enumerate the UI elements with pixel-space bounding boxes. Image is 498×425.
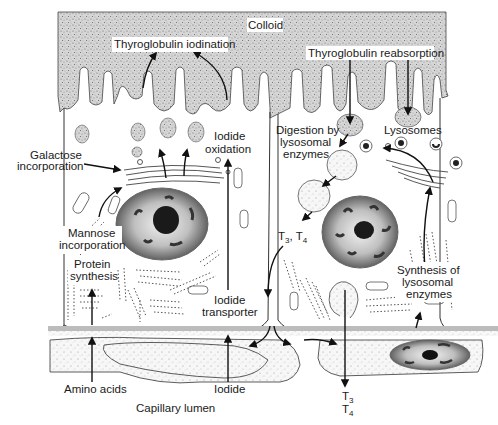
label-digestion: Digestion by [276,124,340,136]
label-thyroglobulin-reabsorption: Thyroglobulin reabsorption [308,47,444,59]
label-amino-acids: Amino acids [64,383,127,395]
lysosomes [360,137,462,169]
label-iodide-oxidation: Iodide [214,130,245,142]
label-capillary-lumen: Capillary lumen [136,402,215,414]
svg-text:incorporation: incorporation [59,239,125,251]
nucleolus [153,206,179,234]
svg-text:lysosomal: lysosomal [280,136,331,148]
svg-text:transporter: transporter [202,306,258,318]
thyroid-follicle-diagram: Colloid Thyroglobulin iodination Thyrogl… [0,0,498,425]
golgi-apparatus [124,158,230,186]
label-iodide: Iodide [214,383,245,395]
label-iodide-transporter: Iodide [214,294,245,306]
capillary-endothelium [50,337,483,383]
label-thyroglobulin-iodination: Thyroglobulin iodination [114,38,235,50]
svg-text:lysosomal: lysosomal [402,276,453,288]
phagolysosome [327,150,357,180]
label-colloid: Colloid [248,19,283,31]
secretory-vesicle [75,125,89,143]
label-synthesis-lysosomal-enzymes: Synthesis of [397,264,460,276]
secretory-vesicle [131,123,145,141]
svg-text:incorporation: incorporation [17,160,83,172]
svg-text:enzymes: enzymes [406,288,452,300]
label-protein-synthesis: Protein [74,258,110,270]
svg-text:synthesis: synthesis [70,270,118,282]
label-lysosomes: Lysosomes [384,124,442,136]
label-t4-out: T4 [342,403,354,418]
golgi-apparatus-right [386,144,449,189]
label-t3-t4-cell: T3, T4 [278,230,308,245]
label-mannose-incorporation: Mannose [68,227,115,239]
basal-vesicle [329,282,358,318]
basement-membrane-band [48,326,498,331]
svg-text:oxidation: oxidation [205,143,251,155]
secretory-vesicle [188,122,204,142]
svg-text:enzymes: enzymes [283,148,329,160]
secretory-vesicle [160,118,176,138]
